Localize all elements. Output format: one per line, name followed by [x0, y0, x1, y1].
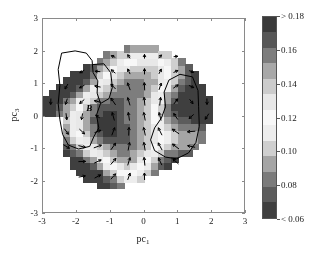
x-axis-tick [144, 210, 145, 213]
y-axis-tick [242, 51, 245, 52]
colorbar-tick [277, 185, 280, 186]
x-axis-tick [144, 18, 145, 21]
x-axis-tick-label: 3 [243, 217, 248, 226]
y-axis-tick [42, 181, 45, 182]
x-axis-title: pc1 [137, 233, 150, 246]
x-axis-tick-label: 2 [209, 217, 214, 226]
y-axis-tick [42, 83, 45, 84]
colorbar-tick-label: 0.14 [281, 79, 297, 88]
colorbar-band [263, 156, 276, 171]
colorbar-band [263, 187, 276, 202]
contour-line [58, 51, 199, 159]
y-axis-tick-label: -1 [20, 144, 38, 153]
y-axis-tick [242, 116, 245, 117]
y-axis-tick-label: 0 [20, 111, 38, 120]
x-axis-tick [245, 210, 246, 213]
colorbar-tick-label: 0.16 [281, 45, 297, 54]
colorbar-tick-label: < 0.06 [281, 215, 304, 224]
colorbar-tick [277, 219, 280, 220]
colorbar-band [263, 48, 276, 63]
colorbar-tick-label: 0.10 [281, 147, 297, 156]
y-axis-tick [242, 18, 245, 19]
vector-field-and-contour-overlay [43, 19, 245, 213]
y-axis-tick-label: 2 [20, 46, 38, 55]
x-axis-tick [110, 210, 111, 213]
y-axis-tick-label: 3 [20, 14, 38, 23]
colorbar-band [263, 32, 276, 47]
colorbar [262, 16, 277, 219]
x-axis-tick [211, 210, 212, 213]
y-axis-tick-label: 1 [20, 79, 38, 88]
colorbar-band [263, 17, 276, 32]
colorbar-band [263, 79, 276, 94]
x-axis-tick [76, 18, 77, 21]
colorbar-band [263, 202, 276, 217]
colorbar-band [263, 141, 276, 156]
y-axis-title-text: pc [8, 112, 19, 121]
x-axis-tick-label: 0 [141, 217, 146, 226]
colorbar-tick-label: 0.08 [281, 181, 297, 190]
x-axis-tick-label: 1 [175, 217, 180, 226]
x-axis-tick-label: -1 [106, 217, 114, 226]
x-axis-tick [110, 18, 111, 21]
y-axis-tick [42, 116, 45, 117]
x-axis-tick [76, 210, 77, 213]
quiver-arrows [49, 54, 208, 180]
y-axis-tick [42, 51, 45, 52]
y-axis-tick [42, 18, 45, 19]
y-axis-tick-label: -2 [20, 176, 38, 185]
colorbar-tick-label: 0.12 [281, 113, 297, 122]
colorbar-tick [277, 16, 280, 17]
colorbar-tick-label: > 0.18 [281, 12, 304, 21]
x-axis-tick [177, 210, 178, 213]
colorbar-band [263, 94, 276, 109]
colorbar-tick [277, 151, 280, 152]
colorbar-tick [277, 50, 280, 51]
x-axis-tick-label: -2 [72, 217, 80, 226]
colorbar-band [263, 63, 276, 78]
y-axis-tick [42, 213, 45, 214]
contour-path-inner [93, 64, 112, 104]
x-axis-title-subscript: 1 [146, 238, 150, 246]
x-axis-tick [245, 18, 246, 21]
annotation-label-b: B [86, 103, 92, 113]
colorbar-band [263, 172, 276, 187]
x-axis-tick-label: -3 [38, 217, 46, 226]
y-axis-tick [242, 213, 245, 214]
colorbar-tick [277, 84, 280, 85]
colorbar-band [263, 110, 276, 125]
x-axis-tick [211, 18, 212, 21]
y-axis-tick-label: -3 [20, 209, 38, 218]
contour-path-basin-b [58, 51, 100, 149]
colorbar-band [263, 125, 276, 140]
y-axis-tick [242, 148, 245, 149]
y-axis-tick [242, 83, 245, 84]
y-axis-tick [242, 181, 245, 182]
colorbar-tick [277, 118, 280, 119]
x-axis-tick [177, 18, 178, 21]
figure-panel: B -3-2-10123-3-2-10123 pc1 pc3 > 0.180.1… [0, 0, 335, 256]
y-axis-tick [42, 148, 45, 149]
plot-area: B [42, 18, 245, 213]
y-axis-title-subscript: 3 [13, 109, 21, 113]
y-axis-title: pc3 [8, 109, 21, 122]
